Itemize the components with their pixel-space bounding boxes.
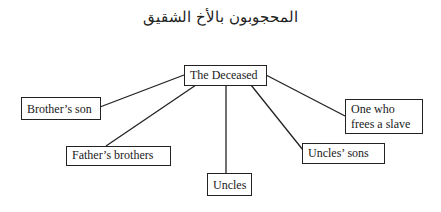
node-uncles: Uncles [207,173,252,196]
edge-fathers-brothers [106,85,196,146]
node-the-deceased: The Deceased [184,65,267,86]
node-label: Brother’s son [27,102,92,116]
node-one-who-frees-a-slave: One who frees a slave [345,99,423,134]
node-brothers-son: Brother’s son [21,97,101,120]
node-fathers-brothers: Father’s brothers [66,146,171,166]
node-label: Father’s brothers [72,148,153,162]
node-label-line1: One who [351,102,417,117]
edge-freer [266,75,345,116]
node-label: Uncles’ sons [308,146,369,160]
node-uncles-sons: Uncles’ sons [302,143,385,164]
edge-uncles-sons [251,85,303,150]
node-label: The Deceased [190,68,258,82]
node-label: Uncles [213,178,246,192]
node-label-line2: frees a slave [351,117,417,132]
